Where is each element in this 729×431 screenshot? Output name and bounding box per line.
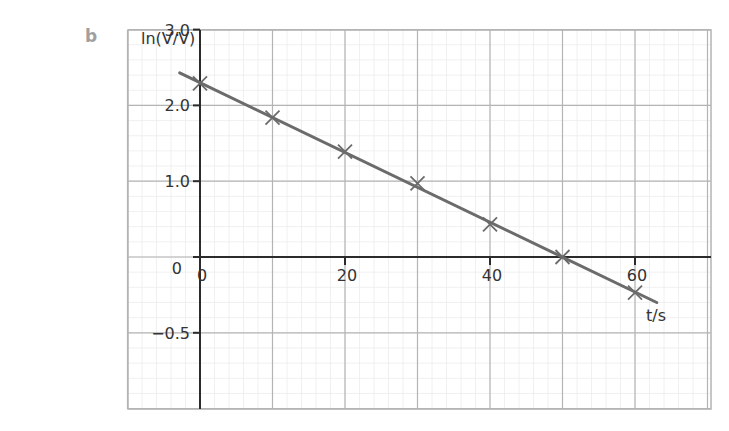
x-tick-label: 40 [482,266,502,285]
y-tick-label: 1.0 [165,172,190,191]
y-tick-label: −0.5 [151,324,190,343]
x-tick-label: 60 [627,266,647,285]
fit-line [180,73,657,303]
axes [193,30,711,409]
y-tick-label: 3.0 [165,21,190,40]
minor-grid [128,30,711,409]
x-tick-label: 0 [197,266,207,285]
plot-frame [128,30,711,409]
y-tick-label: 0 [172,259,182,278]
x-axis-label: t/s [646,306,666,325]
best-fit-line [180,73,657,303]
x-tick-label: 20 [337,266,357,285]
y-tick-label: 2.0 [165,96,190,115]
major-grid [128,30,712,409]
chart: b ln(V/V) t/s 3.02.01.00−0.50204060 [0,0,729,431]
part-label: b [85,26,97,46]
